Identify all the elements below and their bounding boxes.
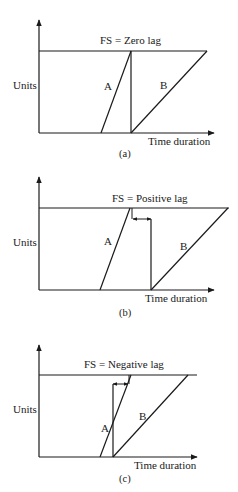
activity-a-line (100, 208, 130, 290)
activity-a-line (100, 375, 131, 457)
y-axis-label: Units (13, 79, 37, 91)
diagram-zero-lag: FS = Zero lag Units A B Time duration (a… (13, 20, 214, 160)
caption: (c) (119, 473, 131, 485)
activity-b-label: B (180, 240, 187, 252)
y-axis-label: Units (13, 236, 37, 248)
activity-a-label: A (104, 235, 112, 247)
diagram-title: FS = Negative lag (84, 358, 164, 370)
y-axis-label: Units (13, 403, 37, 415)
activity-b-line (113, 375, 188, 457)
diagram-positive-lag: FS = Positive lag Units A B Time duratio… (13, 177, 229, 319)
activity-b-line (131, 51, 207, 133)
caption: (b) (119, 307, 132, 319)
activity-b-label: B (160, 79, 167, 91)
activity-a-label: A (104, 80, 112, 92)
activity-b-line (151, 208, 228, 290)
fs-lag-diagrams: FS = Zero lag Units A B Time duration (a… (0, 0, 238, 492)
x-axis-label: Time duration (145, 292, 208, 304)
diagram-title: FS = Zero lag (100, 34, 161, 46)
x-axis-label: Time duration (148, 135, 211, 147)
diagram-negative-lag: FS = Negative lag Units A B Time duratio… (13, 345, 197, 485)
x-axis-label: Time duration (134, 459, 197, 471)
activity-a-line (101, 51, 131, 133)
activity-a-label: A (101, 422, 109, 434)
diagram-title: FS = Positive lag (112, 192, 188, 204)
caption: (a) (119, 148, 131, 160)
activity-b-label: B (139, 410, 146, 422)
